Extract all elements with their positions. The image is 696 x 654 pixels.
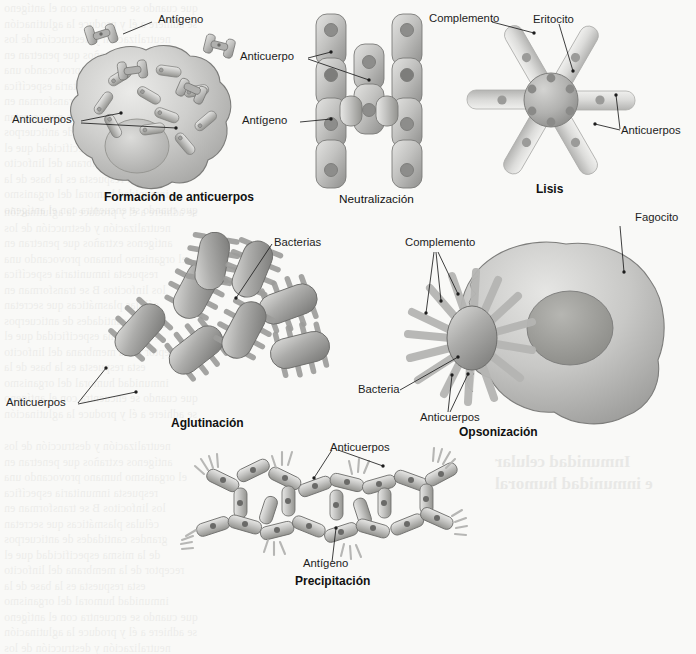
panel-opsonizacion-art (400, 226, 664, 424)
free-antigen-1 (83, 23, 118, 46)
panel-aglutinacion-art (78, 228, 335, 404)
panel-precipitacion-art (181, 448, 467, 562)
label-anticuerpos-lisis: Anticuerpos (621, 124, 681, 136)
leader-lines-precipitacion (314, 450, 383, 562)
phagocyte-nucleus (527, 291, 613, 365)
label-anticuerpos-opsonizacion: Anticuerpos (420, 411, 480, 423)
caption-formacion: Formación de anticuerpos (104, 190, 254, 204)
label-fagocito-opsonizacion: Fagocito (635, 211, 678, 223)
panel-lisis-art (467, 22, 635, 178)
label-eritocito-lisis: Eritocito (533, 13, 574, 25)
bacteria-cluster (102, 228, 335, 387)
label-bacteria-opsonizacion: Bacteria (358, 383, 399, 395)
label-antigeno-neutralizacion: Antígeno (242, 114, 287, 126)
label-complemento-lisis: Complemento (429, 12, 499, 24)
caption-precipitacion: Precipitación (295, 574, 370, 588)
showthrough-line: que cuando se encuentra con el antígeno (4, 611, 198, 623)
label-anticuerpos-aglutinacion: Anticuerpos (6, 396, 66, 408)
label-antigeno-formacion: Antígeno (158, 13, 203, 25)
showthrough-line: neutralización y destrucción de los (4, 642, 171, 654)
panel-neutralizacion-art (300, 14, 422, 188)
caption-lisis: Lisis (536, 182, 563, 196)
label-anticuerpo-neutralizacion: Anticuerpo (240, 50, 294, 62)
label-anticuerpos-precipitacion: Anticuerpos (330, 441, 390, 453)
label-antigeno-precipitacion: Antígeno (303, 557, 348, 569)
caption-neutralizacion: Neutralización (339, 192, 414, 206)
showthrough-line: se adhiere a él y produce la aglutinació… (4, 626, 197, 638)
panel-formacion-art (71, 22, 237, 189)
immune-complex-lattice (181, 448, 467, 559)
caption-aglutinacion: Aglutinación (171, 416, 244, 430)
label-anticuerpos-formacion: Anticuerpos (12, 113, 72, 125)
label-bacterias-aglutinacion: Bacterias (274, 236, 321, 248)
caption-opsonizacion: Opsonización (459, 425, 538, 439)
free-antigen-2 (203, 33, 236, 59)
label-complemento-opsonizacion: Complemento (405, 236, 475, 248)
